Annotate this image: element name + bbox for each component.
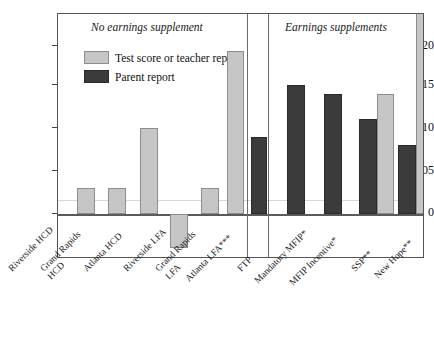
bar-ssp-parent-report: [359, 119, 377, 214]
legend-swatch-dark-icon: [84, 70, 109, 83]
bar-atlanta-hcd-test-score: [140, 128, 158, 214]
bar-mandatory-mfip-parent-report: [287, 85, 305, 214]
legend-label-parent-report: Parent report: [115, 71, 175, 83]
bar-grand-rapids-lfa-test-score: [201, 188, 219, 214]
chart-container: 0.20 0.15 0.10 0.05 0 No earnings supple…: [0, 0, 434, 341]
legend-item-parent-report: Parent report: [84, 68, 240, 85]
bar-atlanta-lfa-test-score: [227, 51, 244, 214]
legend-label-test-score: Test score or teacher report: [115, 52, 240, 64]
legend-item-test-score: Test score or teacher report: [84, 49, 240, 66]
zero-baseline: [58, 214, 423, 216]
plot-inner: No earnings supplement Earnings suppleme…: [58, 14, 423, 257]
bar-new-hope-test-score: [416, 13, 424, 214]
bar-new-hope-parent-report: [398, 145, 416, 214]
bar-ftp-parent-report: [251, 137, 267, 214]
legend-swatch-light-icon: [84, 51, 109, 64]
panel-title-right: Earnings supplements: [285, 21, 387, 33]
bar-ssp-test-score: [377, 94, 394, 214]
bar-mfip-incentive-parent-report: [324, 94, 342, 214]
panel-title-left: No earnings supplement: [91, 21, 203, 33]
x-label-ftp: FTP: [236, 255, 255, 274]
plot-area: No earnings supplement Earnings suppleme…: [57, 13, 424, 258]
panel-divider-left: [247, 14, 248, 257]
panel-divider-right: [268, 14, 269, 257]
legend: Test score or teacher report Parent repo…: [84, 49, 240, 87]
bar-riverside-hcd-test-score: [77, 188, 95, 214]
bar-grand-rapids-hcd-test-score: [108, 188, 126, 214]
